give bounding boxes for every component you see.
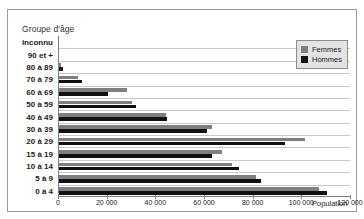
bar-group [59,172,350,184]
x-tick-mark [155,195,156,199]
bar-hommes [59,154,212,158]
y-tick-label: 60 à 69 [26,87,53,96]
bar-hommes [59,167,239,171]
bar-hommes [59,117,167,121]
x-tick-mark [204,195,205,199]
bar-hommes [59,142,285,146]
x-tick-label: 40 000 [145,199,166,206]
y-tick-label: 90 et + [28,50,53,59]
y-tick-label: inconnu [22,38,53,47]
y-tick-label: 10 à 14 [26,162,53,171]
bar-group [59,98,350,110]
chart-screenshot: Groupe d'âge inconnu90 et +80 à 8970 à 7… [0,0,364,219]
x-tick-mark [253,195,254,199]
y-tick-label: 15 à 19 [26,149,53,158]
bar-group [59,147,350,159]
bar-hommes [59,129,207,133]
x-tick-mark [58,195,59,199]
bar-hommes [59,92,108,96]
bar-group [59,110,350,122]
bar-hommes [59,105,136,109]
x-tick-label: 0 [56,199,60,206]
x-axis-title: Population [312,199,347,208]
x-tick-mark [107,195,108,199]
chart-frame: Groupe d'âge inconnu90 et +80 à 8970 à 7… [7,9,357,212]
legend-swatch-hommes [301,56,308,63]
y-tick-label: 0 à 4 [35,186,53,195]
legend-label-femmes: Femmes [312,45,341,54]
legend-label-hommes: Hommes [312,55,342,64]
x-tick-label: 80 000 [242,199,263,206]
legend-item-hommes: Hommes [301,55,342,64]
x-axis-tick-labels: 020 00040 00060 00080 000100 000120 000 [58,199,350,213]
bar-group [59,160,350,172]
x-tick-mark [301,195,302,199]
x-tick-label: 60 000 [193,199,214,206]
legend-swatch-femmes [301,46,308,53]
y-tick-label: 50 à 59 [26,100,53,109]
y-tick-label: 30 à 39 [26,124,53,133]
y-tick-label: 40 à 49 [26,112,53,121]
bar-group [59,86,350,98]
y-tick-label: 70 à 79 [26,75,53,84]
y-tick-label: 5 à 9 [35,174,53,183]
y-axis-title: Groupe d'âge [22,24,74,34]
x-tick-label: 20 000 [96,199,117,206]
bar-group [59,73,350,85]
chart-legend: Femmes Hommes [296,40,348,69]
bar-hommes [59,191,327,195]
bar-group [59,135,350,147]
x-tick-label: 100 000 [289,199,314,206]
bar-group [59,123,350,135]
bar-hommes [59,80,82,84]
x-tick-mark [350,195,351,199]
bar-hommes [59,179,261,183]
legend-item-femmes: Femmes [301,45,342,54]
bar-hommes [59,67,63,71]
y-axis-tick-labels: inconnu90 et +80 à 8970 à 7960 à 6950 à … [8,36,56,197]
y-tick-label: 80 à 89 [26,62,53,71]
y-tick-label: 20 à 29 [26,137,53,146]
